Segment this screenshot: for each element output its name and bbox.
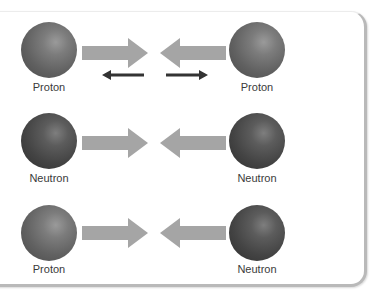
neutron-sphere bbox=[21, 113, 77, 169]
small-arrow-left-icon bbox=[102, 70, 144, 80]
arrow-right-icon bbox=[82, 218, 150, 248]
particle-label: Proton bbox=[217, 81, 297, 93]
proton-sphere bbox=[229, 22, 285, 78]
neutron-sphere bbox=[229, 205, 285, 261]
particle-label: Proton bbox=[9, 81, 89, 93]
neutron-sphere bbox=[229, 113, 285, 169]
particle-label: Neutron bbox=[217, 263, 297, 275]
particle-label: Neutron bbox=[9, 172, 89, 184]
arrow-left-icon bbox=[158, 128, 226, 158]
arrow-right-icon bbox=[82, 128, 150, 158]
particle-label: Proton bbox=[9, 263, 89, 275]
arrow-left-icon bbox=[158, 218, 226, 248]
proton-sphere bbox=[21, 205, 77, 261]
small-arrow-right-icon bbox=[166, 70, 208, 80]
proton-sphere bbox=[21, 22, 77, 78]
arrow-left-icon bbox=[158, 38, 226, 68]
particle-label: Neutron bbox=[217, 172, 297, 184]
arrow-right-icon bbox=[82, 38, 150, 68]
